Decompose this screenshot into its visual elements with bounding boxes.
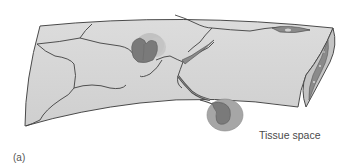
tissue-space-label: Tissue space <box>259 129 320 141</box>
blood-vessel-diagram <box>0 0 352 168</box>
extravasated-leukocyte <box>200 99 243 131</box>
panel-label: (a) <box>13 152 25 163</box>
